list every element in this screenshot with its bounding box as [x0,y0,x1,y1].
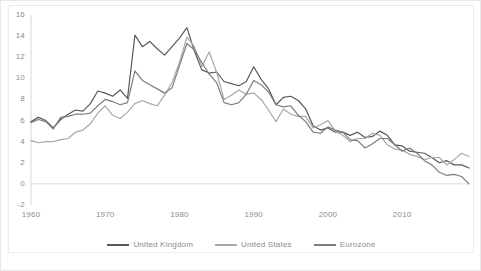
line-chart-plot [1,1,481,271]
x-tick-label: 1980 [159,210,199,219]
y-tick-label: 8 [3,94,25,103]
y-tick-label: 16 [3,10,25,19]
series-line-united-states [31,37,469,165]
series-line-united-kingdom [31,28,469,168]
y-tick-label: 4 [3,137,25,146]
x-tick-label: 2010 [382,210,422,219]
legend-label: United States [241,240,292,249]
legend-item-united-states[interactable]: United States [215,240,292,249]
y-tick-label: 2 [3,158,25,167]
y-tick-label: 14 [3,31,25,40]
x-tick-label: 1960 [11,210,51,219]
y-tick-label: 0 [3,179,25,188]
legend-label: Eurozone [340,240,376,249]
legend-item-united-kingdom[interactable]: United Kingdom [107,240,193,249]
legend-swatch-icon [314,244,336,246]
legend-swatch-icon [107,244,129,246]
x-tick-label: 1990 [234,210,274,219]
legend-item-eurozone[interactable]: Eurozone [314,240,376,249]
chart-legend: United KingdomUnited StatesEurozone [1,240,481,249]
y-tick-label: 10 [3,73,25,82]
y-tick-label: 12 [3,52,25,61]
legend-swatch-icon [215,244,237,246]
x-tick-label: 2000 [308,210,348,219]
x-tick-label: 1970 [85,210,125,219]
y-tick-label: -2 [3,200,25,209]
series-line-eurozone [31,44,469,184]
chart-container: 1614121086420-2 196019701980199020002010… [0,0,481,271]
legend-label: United Kingdom [133,240,193,249]
y-tick-label: 6 [3,116,25,125]
